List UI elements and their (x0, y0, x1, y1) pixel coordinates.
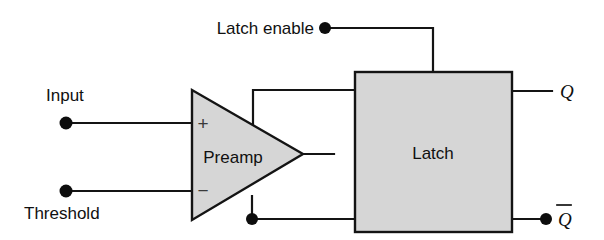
qbar-terminal-dot[interactable] (540, 213, 552, 225)
threshold-label: Threshold (24, 204, 100, 223)
wire-preamp-bottom-to-latch (252, 196, 356, 219)
latch-enable-terminal-dot[interactable] (319, 22, 331, 34)
threshold-terminal-dot[interactable] (60, 185, 73, 198)
wire-preamp-top-to-latch (253, 90, 356, 128)
comparator-latch-diagram: Input Threshold Latch enable Preamp Latc… (0, 0, 604, 240)
input-label: Input (46, 86, 84, 105)
preamp-label: Preamp (203, 148, 263, 167)
q-output-label: Q (560, 81, 574, 102)
qbar-output-label: Q (558, 209, 572, 230)
preamp-minus-pin-label: − (197, 180, 208, 201)
latch-enable-label: Latch enable (217, 19, 314, 38)
diagram-canvas: Input Threshold Latch enable Preamp Latc… (0, 0, 604, 240)
preamp-feedback-junction-dot (246, 213, 258, 225)
latch-label: Latch (412, 144, 454, 163)
input-terminal-dot[interactable] (60, 117, 73, 130)
wire-latch-enable-to-latch (325, 28, 433, 73)
preamp-plus-pin-label: + (197, 113, 208, 134)
